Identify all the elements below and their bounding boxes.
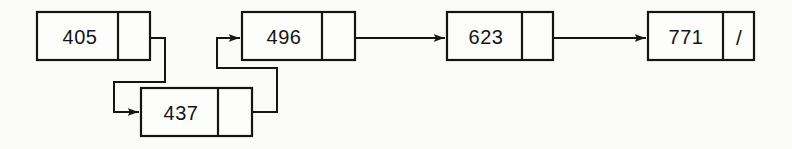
- node-value-label: 623: [469, 26, 504, 48]
- list-node-405: 405: [37, 12, 150, 60]
- node-value-label: 771: [669, 26, 704, 48]
- linked-list-canvas: 405 437 496 623 771 /: [0, 0, 792, 149]
- list-node-437: 437: [141, 88, 252, 136]
- list-node-771: 771 /: [648, 12, 754, 60]
- node-value-label: 437: [164, 102, 199, 124]
- list-node-496: 496: [242, 12, 355, 60]
- null-pointer-slash-icon: /: [736, 26, 742, 49]
- linked-list-diagram: 405 437 496 623 771 /: [0, 0, 792, 149]
- node-value-label: 496: [267, 26, 302, 48]
- list-node-623: 623: [447, 12, 553, 60]
- node-value-label: 405: [63, 26, 98, 48]
